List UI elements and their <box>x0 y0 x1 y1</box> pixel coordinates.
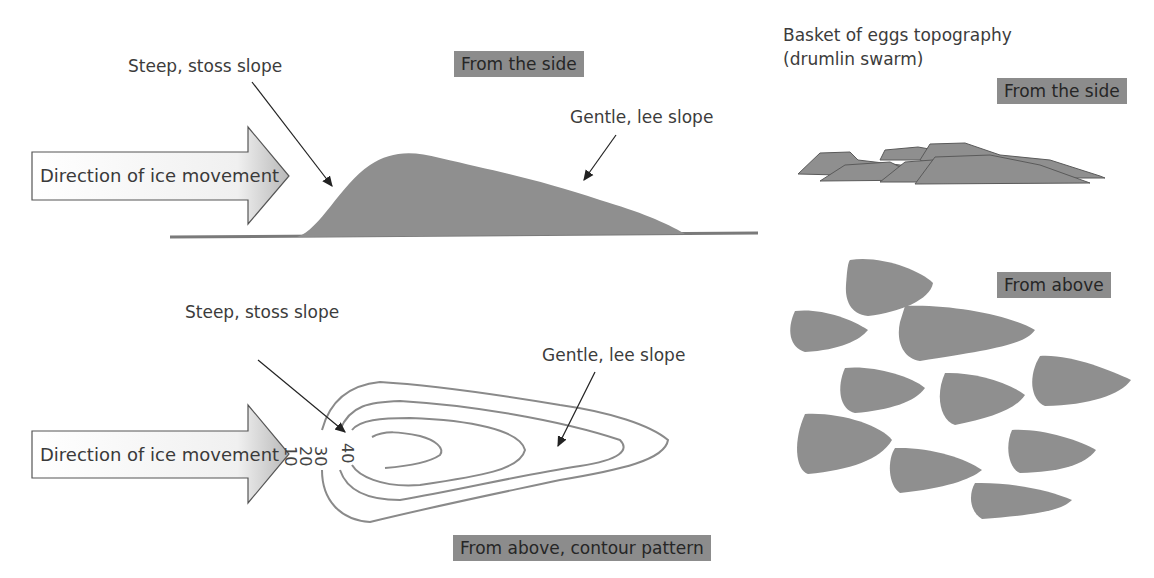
drumlin-swarm-side <box>798 143 1105 184</box>
ice-direction-label-top: Direction of ice movement <box>40 165 279 186</box>
lee-label-bottom: Gentle, lee slope <box>542 345 685 365</box>
lee-label-top: Gentle, lee slope <box>570 107 713 127</box>
tag-swarm-above: From above <box>997 272 1111 298</box>
swarm-title-line2: (drumlin swarm) <box>783 49 923 69</box>
stoss-pointer-bottom <box>258 360 345 432</box>
tag-from-above-contour: From above, contour pattern <box>453 535 711 561</box>
lee-pointer-top <box>584 135 616 180</box>
drumlin-swarm-above <box>790 259 1131 519</box>
stoss-label-bottom: Steep, stoss slope <box>185 302 339 322</box>
diagram-graphics <box>0 0 1154 578</box>
stoss-label-top: Steep, stoss slope <box>128 56 282 76</box>
contour-map <box>322 382 668 522</box>
ice-direction-label-bottom: Direction of ice movement <box>40 444 279 465</box>
lee-pointer-bottom <box>558 372 595 446</box>
contour-30: 30 <box>311 446 330 466</box>
tag-from-the-side: From the side <box>454 51 584 77</box>
swarm-title-line1: Basket of eggs topography <box>783 25 1012 45</box>
tag-swarm-side: From the side <box>997 78 1127 104</box>
contour-40: 40 <box>338 443 357 463</box>
